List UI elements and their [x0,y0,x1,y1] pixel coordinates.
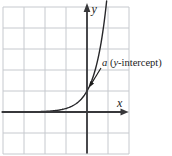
annotation-arrowhead-icon [89,81,94,87]
axes [2,3,129,154]
figure-container: y x a (y-intercept) [0,0,172,156]
exponential-curve-graph: y x a (y-intercept) [0,0,172,156]
exponential-curve [2,1,107,112]
y-axis-label: y [91,2,98,16]
curve-layer [2,1,107,112]
annotation-tail: -intercept) [118,57,162,69]
y-intercept-annotation: a (y-intercept) [102,57,162,69]
x-axis-label: x [116,96,123,110]
grid [3,7,129,154]
